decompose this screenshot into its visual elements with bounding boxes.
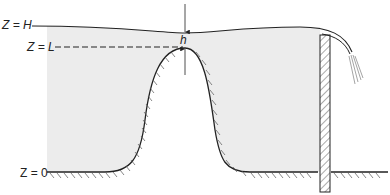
falling-water-icon xyxy=(349,55,363,84)
label-z-l: Z = L xyxy=(26,40,55,54)
weir-plate xyxy=(320,35,330,192)
label-z-0: Z = 0 xyxy=(20,166,48,180)
label-z-h: Z = H xyxy=(1,18,32,32)
flow-over-hump-diagram: Z = H Z = L h Z = 0 xyxy=(0,0,390,195)
label-h: h xyxy=(180,33,187,47)
